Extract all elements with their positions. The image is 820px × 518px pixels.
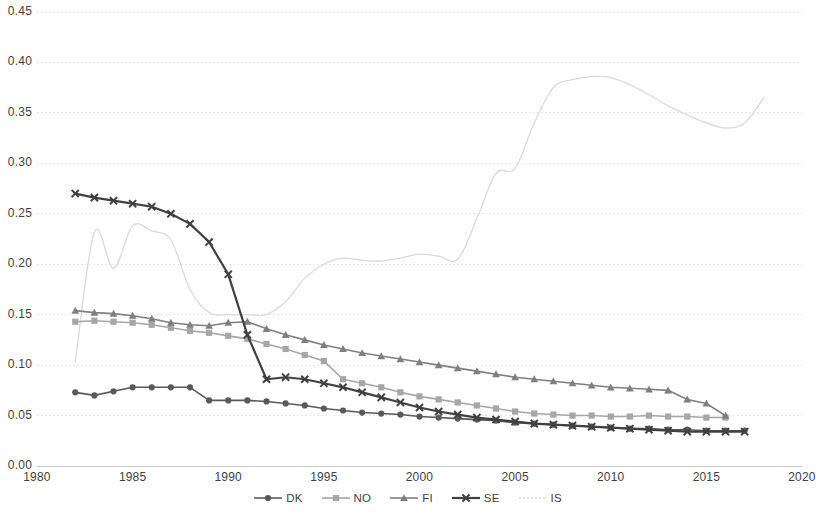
series-se [72,190,749,435]
legend-marker-circle-icon [253,492,283,504]
legend-item-se[interactable]: SE [451,492,500,504]
legend-label: IS [551,492,562,504]
legend-label: SE [484,492,500,504]
x-tick-label: 1985 [108,470,158,484]
legend-marker-square-icon [321,492,351,504]
y-tick-label: 0.10 [0,357,32,371]
y-tick-label: 0.05 [0,408,32,422]
legend-label: FI [422,492,433,504]
chart-legend: DKNOFISEIS [0,492,815,504]
x-tick-label: 2000 [395,470,445,484]
x-tick-label: 2020 [777,470,820,484]
x-tick-label: 2015 [681,470,731,484]
series-no [72,318,728,421]
legend-marker-none-icon [518,492,548,504]
x-tick-label: 2005 [490,470,540,484]
series-is [75,76,764,362]
y-tick-label: 0.45 [0,4,32,18]
legend-label: NO [354,492,372,504]
y-tick-label: 0.25 [0,206,32,220]
legend-marker-triangle-icon [389,492,419,504]
x-tick-label: 2010 [586,470,636,484]
legend-item-no[interactable]: NO [321,492,372,504]
y-tick-label: 0.15 [0,307,32,321]
legend-marker-cross-icon [451,492,481,504]
legend-item-dk[interactable]: DK [253,492,302,504]
legend-label: DK [286,492,302,504]
legend-item-fi[interactable]: FI [389,492,433,504]
y-tick-label: 0.20 [0,256,32,270]
x-tick-label: 1995 [299,470,349,484]
y-tick-label: 0.30 [0,155,32,169]
y-tick-label: 0.35 [0,105,32,119]
x-tick-label: 1980 [12,470,62,484]
legend-item-is[interactable]: IS [518,492,562,504]
y-tick-label: 0.40 [0,54,32,68]
x-tick-label: 1990 [203,470,253,484]
